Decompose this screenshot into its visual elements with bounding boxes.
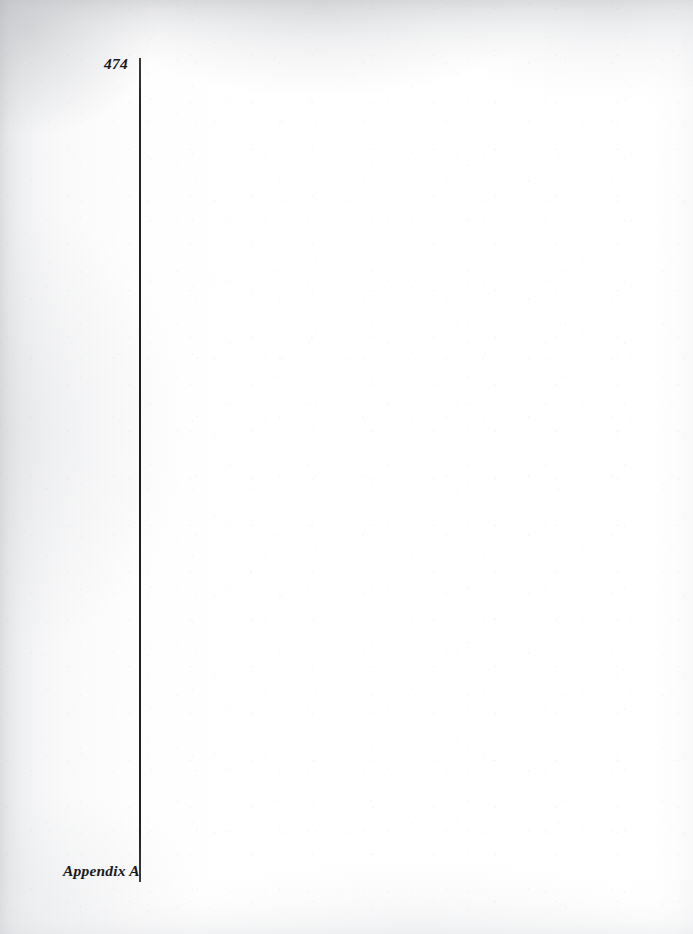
- scanned-page: 474 Appendix A: [0, 0, 693, 934]
- vertical-rule: [139, 58, 141, 882]
- page-body-blank-area: [150, 60, 670, 880]
- page-number: 474: [104, 56, 128, 72]
- running-foot-label: Appendix A: [63, 863, 140, 879]
